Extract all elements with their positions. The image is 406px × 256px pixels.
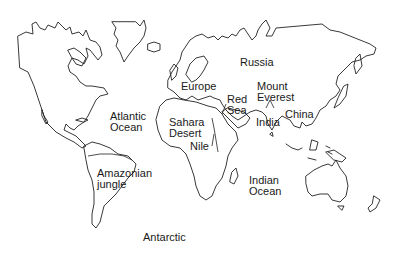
label-russia: Russia <box>240 57 274 68</box>
north-america-outline <box>18 22 108 148</box>
madagascar-outline <box>230 168 238 184</box>
britain-outline <box>170 64 178 80</box>
label-india: India <box>256 117 280 128</box>
tasmania-outline <box>338 206 344 210</box>
kamchatka-outline <box>354 54 362 74</box>
label-nile: Nile <box>190 141 209 152</box>
iceland-outline <box>148 42 160 52</box>
label-indian-ocean: Indian Ocean <box>249 175 281 197</box>
label-china: China <box>285 109 314 120</box>
eurasia-outline <box>168 20 376 130</box>
label-red-sea: Red Sea <box>227 94 247 116</box>
label-sahara-desert: Sahara Desert <box>169 117 204 139</box>
label-mount-everest: Mount Everest <box>257 81 294 103</box>
scandinavia-outline <box>186 56 208 82</box>
label-atlantic-ocean: Atlantic Ocean <box>110 111 146 133</box>
sri-lanka <box>270 132 273 136</box>
nile-river <box>212 118 218 152</box>
australia-outline <box>306 160 348 202</box>
label-antarctic: Antarctic <box>143 232 186 243</box>
hudson-bay-outline <box>68 48 86 66</box>
new-zealand-outline <box>368 196 380 212</box>
label-amazonian-jungle: Amazonian jungle <box>97 168 152 190</box>
indonesia-outline <box>286 140 332 160</box>
label-europe: Europe <box>181 81 216 92</box>
baja-california <box>42 110 48 124</box>
greenland-outline <box>112 20 146 62</box>
amazon-river <box>88 154 132 160</box>
